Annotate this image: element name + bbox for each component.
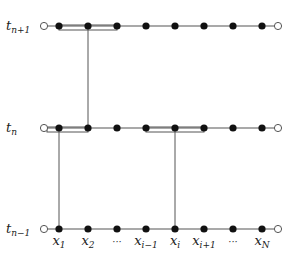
grid-node-icon: [171, 22, 178, 29]
space-node-label: xN: [254, 233, 270, 250]
grid-node-icon: [229, 22, 236, 29]
boundary-node-icon: [274, 22, 281, 29]
grid-node-icon: [171, 124, 178, 131]
grid-node-icon: [113, 22, 120, 29]
grid-node-icon: [142, 225, 149, 232]
space-node-label: ···: [112, 236, 122, 247]
diagram-svg: tn+1tntn−1x1x2···xi−1xixi+1···xN: [0, 0, 300, 263]
time-level-label: tn+1: [6, 18, 30, 35]
boundary-node-icon: [274, 225, 281, 232]
grid-node-icon: [171, 225, 178, 232]
boundary-node-icon: [40, 22, 47, 29]
grid-node-icon: [84, 124, 91, 131]
space-node-label: xi−1: [134, 233, 158, 250]
grid-node-icon: [258, 22, 265, 29]
space-node-label: x1: [52, 233, 65, 250]
boundary-node-icon: [274, 124, 281, 131]
grid-node-icon: [258, 124, 265, 131]
grid-node-icon: [258, 225, 265, 232]
space-node-label: ···: [228, 236, 238, 247]
grid-node-icon: [200, 124, 207, 131]
time-level-label: tn−1: [6, 221, 30, 238]
grid-node-icon: [55, 22, 62, 29]
grid-node-icon: [84, 22, 91, 29]
grid-node-icon: [229, 124, 236, 131]
space-node-label: x2: [81, 233, 94, 250]
boundary-node-icon: [40, 124, 47, 131]
grid-node-icon: [142, 124, 149, 131]
grid-node-icon: [84, 225, 91, 232]
grid-node-icon: [113, 225, 120, 232]
grid-node-icon: [55, 124, 62, 131]
time-level-label: tn: [6, 120, 17, 137]
stencil-diagram: tn+1tntn−1x1x2···xi−1xixi+1···xN: [0, 0, 300, 263]
grid-node-icon: [142, 22, 149, 29]
grid-node-icon: [229, 225, 236, 232]
grid-node-icon: [113, 124, 120, 131]
grid-node-icon: [200, 22, 207, 29]
space-node-label: xi+1: [192, 233, 216, 250]
space-node-label: xi: [170, 233, 180, 250]
grid-node-icon: [200, 225, 207, 232]
boundary-node-icon: [40, 225, 47, 232]
grid-node-icon: [55, 225, 62, 232]
